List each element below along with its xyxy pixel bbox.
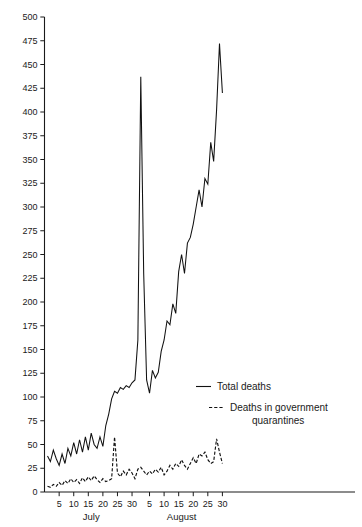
y-tick-label: 325: [22, 178, 37, 188]
x-tick-label: 25: [203, 499, 213, 509]
x-tick-label: 10: [69, 499, 79, 509]
y-tick-label: 125: [22, 368, 37, 378]
y-axis: 0255075100125150175200225250275300325350…: [22, 12, 44, 497]
x-tick-label: 5: [147, 499, 152, 509]
x-tick-label: 5: [57, 499, 62, 509]
x-month-label: July: [83, 511, 100, 522]
y-tick-label: 100: [22, 392, 37, 402]
y-tick-label: 350: [22, 155, 37, 165]
y-tick-label: 175: [22, 321, 37, 331]
y-tick-label: 500: [22, 12, 37, 22]
x-tick-label: 30: [217, 499, 227, 509]
x-tick-label: 15: [83, 499, 93, 509]
y-tick-label: 425: [22, 83, 37, 93]
y-tick-label: 75: [27, 416, 37, 426]
y-tick-label: 0: [32, 487, 37, 497]
line-chart: 0255075100125150175200225250275300325350…: [0, 0, 362, 527]
x-tick-label: 25: [112, 499, 122, 509]
x-month-label: August: [167, 511, 197, 522]
legend-label-quarantine-deaths-line2: quarantines: [252, 415, 304, 426]
legend-label-total-deaths: Total deaths: [217, 381, 271, 392]
x-tick-label: 15: [174, 499, 184, 509]
y-tick-label: 450: [22, 60, 37, 70]
x-tick-label: 30: [127, 499, 137, 509]
chart-container: 0255075100125150175200225250275300325350…: [0, 0, 362, 527]
y-tick-label: 300: [22, 202, 37, 212]
y-tick-label: 50: [27, 440, 37, 450]
y-tick-label: 475: [22, 36, 37, 46]
chart-legend: Total deathsDeaths in governmentquaranti…: [196, 381, 328, 426]
y-tick-label: 225: [22, 273, 37, 283]
y-tick-label: 375: [22, 131, 37, 141]
legend-label-quarantine-deaths: Deaths in government: [230, 402, 328, 413]
x-axis: 51015202530July51015202530August: [45, 492, 356, 522]
y-tick-label: 150: [22, 345, 37, 355]
y-tick-label: 250: [22, 250, 37, 260]
series-layer: [48, 44, 223, 488]
x-tick-label: 20: [98, 499, 108, 509]
series-line-total-deaths: [48, 44, 223, 466]
x-tick-label: 20: [188, 499, 198, 509]
y-tick-label: 275: [22, 226, 37, 236]
y-tick-label: 200: [22, 297, 37, 307]
x-tick-label: 10: [159, 499, 169, 509]
y-tick-label: 400: [22, 107, 37, 117]
y-tick-label: 25: [27, 463, 37, 473]
